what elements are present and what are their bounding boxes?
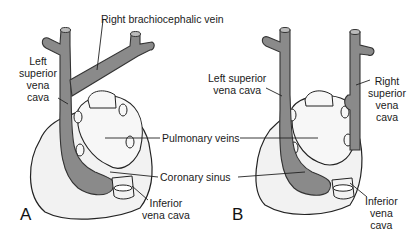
label-a-inferior-vena-cava: Inferior vena cava: [142, 197, 190, 221]
label-pulmonary-veins: Pulmonary veins: [162, 132, 240, 144]
right-brachiocephalic-a: [70, 35, 154, 96]
label-b-right-superior-vena-cava: Right superior vena cava: [368, 75, 406, 123]
label-b-left-superior-vena-cava: Left superior vena cava: [208, 72, 266, 96]
label-b-inferior-vena-cava: Inferior vena cava: [365, 195, 398, 231]
panel-a-drawing: [30, 20, 160, 219]
panel-label-a: A: [20, 205, 31, 225]
diagram-canvas: [0, 0, 418, 235]
panel-b-drawing: [238, 28, 374, 215]
label-coronary-sinus: Coronary sinus: [160, 171, 231, 183]
panel-label-b: B: [232, 205, 243, 225]
label-a-left-superior-vena-cava: Left superior vena cava: [19, 55, 57, 103]
label-right-brachiocephalic-vein: Right brachiocephalic vein: [101, 13, 224, 25]
